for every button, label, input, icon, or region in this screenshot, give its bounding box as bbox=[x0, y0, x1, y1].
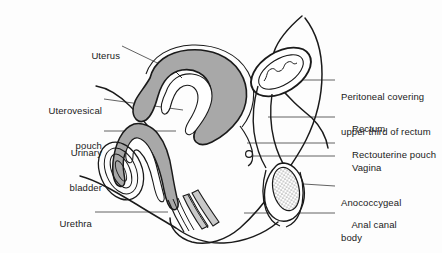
label-urinary-bladder-line2: bladder bbox=[0, 182, 102, 194]
label-vagina-text: Vagina bbox=[352, 162, 381, 173]
peritoneum-reflection bbox=[240, 126, 253, 166]
label-uterus: Uterus bbox=[0, 38, 120, 73]
label-urethra-text: Urethra bbox=[60, 218, 92, 229]
label-urethra: Urethra bbox=[0, 206, 92, 241]
anatomical-figure: Uterus Uterovesical pouch Urinary bladde… bbox=[0, 0, 442, 253]
label-urinary-bladder-line1: Urinary bbox=[0, 147, 102, 159]
label-anal-canal-text: Anal canal bbox=[351, 219, 396, 230]
label-peritoneal-covering-line1: Peritoneal covering bbox=[341, 91, 442, 103]
label-urinary-bladder: Urinary bladder bbox=[0, 124, 102, 216]
rectouterine-pouch-group bbox=[240, 126, 253, 166]
label-uterovesical-pouch-line1: Uterovesical bbox=[0, 105, 102, 117]
perineal-contour bbox=[80, 176, 278, 243]
vaginal-fornix-marker bbox=[246, 151, 253, 158]
anococcygeal-group bbox=[264, 163, 304, 221]
rectum-group bbox=[242, 38, 319, 172]
label-uterus-text: Uterus bbox=[91, 50, 120, 61]
label-anal-canal: Anal canal bbox=[341, 207, 442, 242]
rectum-descending-wall-right bbox=[271, 94, 288, 172]
label-rectum-text: Rectum bbox=[352, 123, 385, 134]
